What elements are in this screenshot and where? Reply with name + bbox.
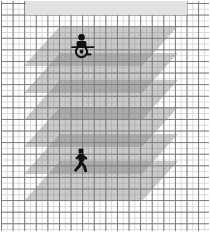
walking-person-icon [70, 148, 92, 174]
plane-stack [0, 0, 210, 232]
wheelchair-user-icon [70, 33, 96, 59]
diagram-canvas: Stacked occupancy planes over grid [0, 0, 210, 232]
